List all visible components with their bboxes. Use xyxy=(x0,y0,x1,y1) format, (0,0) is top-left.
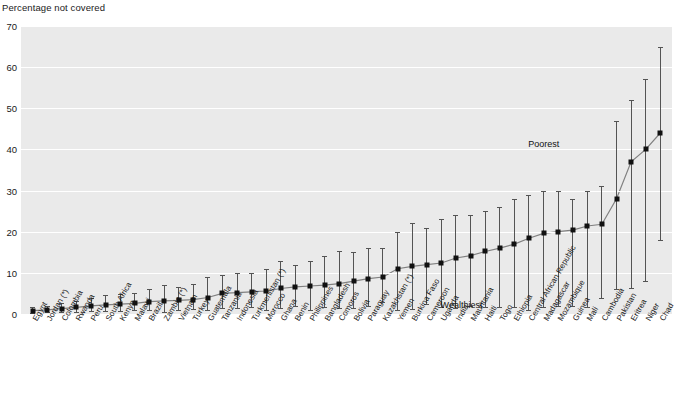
x-axis-tick-labels: EgyptJordan (*)ColombiaRwandaPeruSouth A… xyxy=(0,0,677,420)
x-tick-label: India xyxy=(454,303,470,323)
x-tick-label: Egypt xyxy=(31,300,49,322)
x-tick-label: Mali xyxy=(585,305,600,322)
x-tick-label: Chad xyxy=(658,301,675,322)
x-tick-label: Peru xyxy=(89,303,105,322)
x-tick-label: Togo xyxy=(498,303,514,323)
chart-root: Percentage not covered PoorestWealthiest… xyxy=(0,0,677,420)
